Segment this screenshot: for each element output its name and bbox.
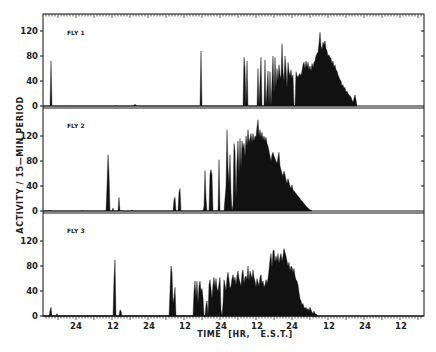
y-axis-title: ACTIVITY / 15—MIN PERIOD [16, 96, 25, 233]
y-tick-label: 0 [32, 311, 38, 321]
x-tick-label: 24 [70, 321, 82, 331]
x-tick-label: 12 [107, 321, 119, 331]
y-tick-label: 80 [26, 156, 38, 166]
y-tick-label: 40 [26, 181, 38, 191]
y-tick-label: 120 [20, 26, 38, 36]
panel-label: FLY 2 [67, 122, 85, 129]
y-tick-label: 0 [32, 206, 38, 216]
x-tick-label: 12 [179, 321, 191, 331]
chart-panels: FLY 1FLY 2FLY 3 [43, 29, 424, 316]
activity-area [43, 32, 357, 106]
y-axis: 040801200408012004080120 [20, 26, 424, 321]
activity-area [43, 120, 312, 211]
panel-label: FLY 1 [67, 29, 85, 36]
x-tick-label: 24 [143, 321, 155, 331]
x-tick-label: 12 [323, 321, 335, 331]
y-tick-label: 40 [26, 76, 38, 86]
activity-chart: FLY 1FLY 2FLY 3 040801200408012004080120… [0, 0, 436, 352]
activity-area [43, 249, 318, 317]
y-tick-label: 80 [26, 51, 38, 61]
x-axis-title: TIME [HR, E.S.T.] [197, 330, 293, 339]
x-tick-label: 24 [359, 321, 371, 331]
panel-2: FLY 2 [43, 120, 424, 211]
panel-1: FLY 1 [43, 29, 424, 106]
x-tick-label: 12 [395, 321, 407, 331]
y-tick-label: 120 [20, 236, 38, 246]
y-tick-label: 80 [26, 261, 38, 271]
panel-label: FLY 3 [67, 227, 85, 234]
panel-3: FLY 3 [43, 227, 424, 316]
y-tick-label: 40 [26, 286, 38, 296]
y-tick-label: 0 [32, 101, 38, 111]
